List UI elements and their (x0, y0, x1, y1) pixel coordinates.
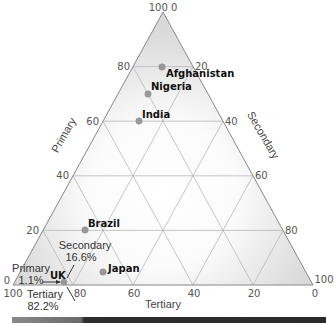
left-corner-tertiary-label: 100 (3, 288, 22, 299)
annotation-primary-value: 1.1% (18, 274, 43, 286)
primary-tick-20: 20 (26, 225, 39, 236)
apex-label: 100 0 (149, 2, 178, 13)
annotation-secondary-value: 16.6% (65, 251, 96, 263)
primary-tick-80: 80 (117, 61, 130, 72)
left-corner-primary-label: 0 (4, 275, 10, 286)
annotation-tertiary-label: Tertiary (27, 288, 64, 300)
annotation-tertiary-value: 82.2% (27, 300, 58, 312)
label-india: India (142, 109, 170, 120)
right-corner-secondary-label: 100 (314, 274, 333, 285)
secondary-tick-60: 60 (255, 170, 268, 181)
point-japan (100, 269, 106, 275)
tertiary-tick-60: 60 (128, 288, 141, 299)
primary-tick-60: 60 (86, 116, 99, 127)
primary-tick-40: 40 (56, 170, 69, 181)
point-afghanistan (159, 64, 165, 70)
primary-axis-title: Primary (49, 115, 79, 154)
tertiary-tick-40: 40 (188, 288, 201, 299)
right-corner-tertiary-label: 0 (312, 288, 318, 299)
label-japan: Japan (107, 263, 140, 274)
label-uk: UK (50, 270, 67, 281)
annotation-primary-label: Primary (12, 262, 50, 274)
label-brazil: Brazil (88, 218, 120, 229)
label-nigeria: Nigeria (151, 81, 192, 92)
annotation-secondary-label: Secondary (59, 239, 112, 251)
bottom-bar (12, 317, 326, 323)
secondary-tick-80: 80 (285, 225, 298, 236)
secondary-axis-title: Secondary (245, 109, 282, 161)
secondary-tick-40: 40 (225, 116, 238, 127)
tertiary-tick-20: 20 (248, 288, 261, 299)
label-afghanistan: Afghanistan (166, 68, 234, 79)
tertiary-axis-title: Tertiary (145, 298, 182, 310)
ternary-chart: 100 0 0 100 100 0 20 40 60 80 20 40 60 8… (0, 0, 335, 323)
tertiary-tick-80: 80 (74, 288, 87, 299)
